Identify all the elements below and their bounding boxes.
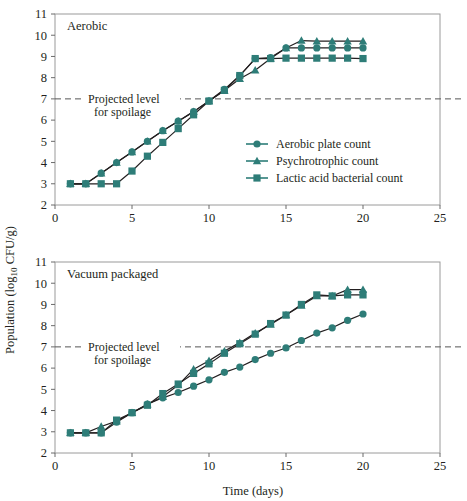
marker-circle <box>298 44 305 51</box>
marker-square <box>159 139 166 146</box>
marker-square <box>236 340 243 347</box>
y-axis-label: Population (log10 CFU/g) <box>3 226 19 354</box>
x-tick-label: 0 <box>52 459 58 473</box>
chart-background <box>0 0 467 501</box>
x-tick-label: 5 <box>129 459 135 473</box>
y-tick-label: 4 <box>41 156 48 170</box>
marker-square <box>98 429 105 436</box>
y-tick-label: 8 <box>41 319 47 333</box>
y-tick-label: 7 <box>41 92 47 106</box>
spoilage-label-line2: for spoilage <box>94 105 151 119</box>
marker-square <box>253 174 260 181</box>
y-tick-label: 9 <box>41 50 47 64</box>
y-axis-label-tail: CFU/g) <box>3 226 17 267</box>
x-tick-label: 10 <box>203 211 216 225</box>
marker-circle <box>313 44 320 51</box>
marker-square <box>82 180 89 187</box>
legend-label: Lactic acid bacterial count <box>276 171 404 185</box>
marker-square <box>298 301 305 308</box>
y-tick-label: 6 <box>41 113 47 127</box>
y-tick-label: 10 <box>35 29 48 43</box>
marker-circle <box>359 44 366 51</box>
marker-circle <box>175 389 182 396</box>
x-axis-label: Time (days) <box>223 484 283 498</box>
marker-square <box>359 55 366 62</box>
marker-square <box>329 292 336 299</box>
x-axis-label-text: Time (days) <box>223 484 283 498</box>
marker-square <box>359 291 366 298</box>
x-tick-label: 25 <box>434 211 447 225</box>
marker-square <box>344 55 351 62</box>
legend-label: Psychrotrophic count <box>276 154 379 168</box>
spoilage-label-line1: Projected level <box>88 340 160 354</box>
x-tick-label: 0 <box>52 211 58 225</box>
marker-circle <box>236 363 243 370</box>
figure-container: Population (log10 CFU/g) 234567891011051… <box>0 0 467 501</box>
marker-square <box>344 291 351 298</box>
spoilage-label-line2: for spoilage <box>94 353 151 367</box>
marker-square <box>282 55 289 62</box>
marker-circle <box>205 376 212 383</box>
marker-square <box>298 55 305 62</box>
y-tick-label: 7 <box>41 340 47 354</box>
marker-square <box>98 180 105 187</box>
marker-square <box>267 55 274 62</box>
y-tick-label: 10 <box>35 277 48 291</box>
x-tick-label: 15 <box>280 459 293 473</box>
y-tick-label: 2 <box>41 198 47 212</box>
marker-square <box>252 331 259 338</box>
y-tick-label: 5 <box>41 135 47 149</box>
marker-circle <box>313 329 320 336</box>
marker-square <box>128 167 135 174</box>
marker-square <box>190 111 197 118</box>
panel-title: Vacuum packaged <box>67 267 159 281</box>
x-tick-label: 20 <box>357 211 370 225</box>
marker-circle <box>221 369 228 376</box>
marker-circle <box>252 356 259 363</box>
marker-circle <box>267 350 274 357</box>
y-axis-label-main: Population (log <box>3 276 17 354</box>
x-tick-label: 5 <box>129 211 135 225</box>
svg-text:Population (log10 CFU/g): Population (log10 CFU/g) <box>3 226 19 354</box>
marker-square <box>159 390 166 397</box>
marker-square <box>67 180 74 187</box>
y-tick-label: 11 <box>35 255 47 269</box>
marker-square <box>313 291 320 298</box>
y-tick-label: 6 <box>41 361 47 375</box>
marker-square <box>329 55 336 62</box>
marker-square <box>67 429 74 436</box>
y-tick-label: 2 <box>41 446 47 460</box>
marker-square <box>205 97 212 104</box>
marker-square <box>205 360 212 367</box>
population-growth-chart: Population (log10 CFU/g) 234567891011051… <box>0 0 467 501</box>
y-tick-label: 3 <box>41 425 47 439</box>
marker-circle <box>298 337 305 344</box>
marker-circle <box>282 344 289 351</box>
marker-square <box>113 180 120 187</box>
marker-square <box>221 87 228 94</box>
marker-circle <box>344 317 351 324</box>
x-tick-label: 25 <box>434 459 447 473</box>
marker-square <box>82 429 89 436</box>
marker-square <box>252 55 259 62</box>
spoilage-label-line1: Projected level <box>88 92 160 106</box>
x-tick-label: 15 <box>280 211 293 225</box>
y-tick-label: 3 <box>41 177 47 191</box>
y-tick-label: 5 <box>41 383 47 397</box>
marker-square <box>175 380 182 387</box>
marker-circle <box>359 310 366 317</box>
y-tick-label: 11 <box>35 7 47 21</box>
marker-circle <box>344 44 351 51</box>
x-tick-label: 10 <box>203 459 216 473</box>
panel-title: Aerobic <box>67 19 108 33</box>
legend-label: Aerobic plate count <box>276 137 371 151</box>
marker-square <box>190 370 197 377</box>
marker-square <box>313 55 320 62</box>
marker-circle <box>190 383 197 390</box>
marker-square <box>282 311 289 318</box>
marker-circle <box>253 140 260 147</box>
marker-square <box>113 417 120 424</box>
marker-circle <box>329 324 336 331</box>
marker-square <box>128 409 135 416</box>
y-tick-label: 8 <box>41 71 47 85</box>
